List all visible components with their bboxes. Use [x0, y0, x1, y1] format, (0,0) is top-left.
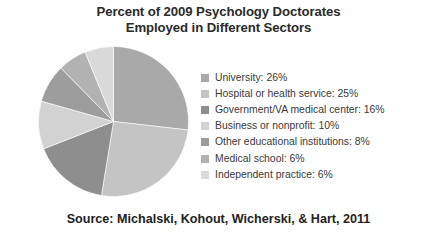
pie-slices: [38, 47, 188, 197]
legend-item[interactable]: Government/VA medical center: 16%: [201, 102, 435, 118]
chart-legend: University: 26%Hospital or health servic…: [201, 70, 435, 183]
legend-item[interactable]: Business or nonprofit: 10%: [201, 118, 435, 134]
legend-item[interactable]: Other educational institutions: 8%: [201, 134, 435, 150]
legend-item-label: Independent practice: 6%: [215, 169, 333, 181]
chart-title-line-1: Percent of 2009 Psychology Doctorates: [0, 4, 437, 20]
legend-color-swatch: [201, 155, 209, 163]
legend-item[interactable]: Medical school: 6%: [201, 150, 435, 166]
legend-item-label: Hospital or health service: 25%: [215, 88, 358, 100]
legend-color-swatch: [201, 90, 209, 98]
pie-svg: [38, 46, 189, 197]
legend-item[interactable]: Hospital or health service: 25%: [201, 86, 435, 102]
legend-item-label: Medical school: 6%: [215, 153, 305, 165]
legend-color-swatch: [201, 171, 209, 179]
legend-item[interactable]: University: 26%: [201, 70, 435, 86]
pie-slice[interactable]: [101, 122, 188, 197]
source-citation: Source: Michalski, Kohout, Wicherski, & …: [0, 212, 437, 226]
legend-color-swatch: [201, 74, 209, 82]
legend-color-swatch: [201, 138, 209, 146]
legend-item-label: Business or nonprofit: 10%: [215, 120, 339, 132]
legend-item-label: Other educational institutions: 8%: [215, 136, 370, 148]
legend-item-label: Government/VA medical center: 16%: [215, 104, 385, 116]
pie-chart-figure: Percent of 2009 Psychology Doctorates Em…: [0, 0, 437, 238]
legend-color-swatch: [201, 122, 209, 130]
chart-title: Percent of 2009 Psychology Doctorates Em…: [0, 4, 437, 35]
legend-color-swatch: [201, 106, 209, 114]
chart-title-line-2: Employed in Different Sectors: [0, 20, 437, 36]
legend-item[interactable]: Independent practice: 6%: [201, 167, 435, 183]
pie-graphic: [38, 46, 189, 197]
legend-item-label: University: 26%: [215, 72, 287, 84]
pie-slice[interactable]: [114, 47, 189, 130]
